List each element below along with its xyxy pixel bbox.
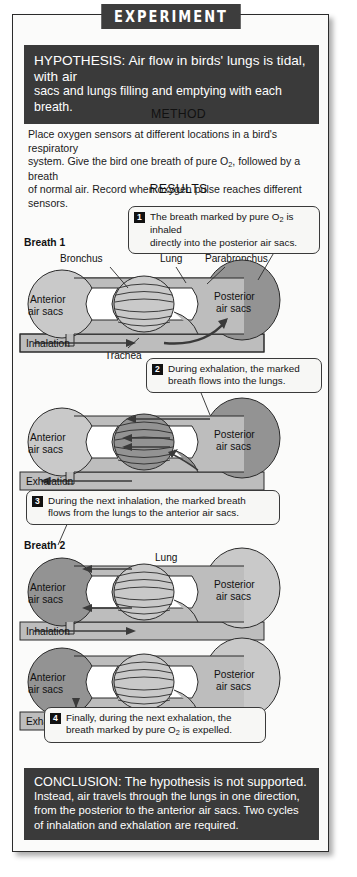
hypothesis-line-1: HYPOTHESIS: Air flow in birds' lungs is … [34,53,310,84]
svg-text:air sacs: air sacs [216,681,251,692]
conclusion-line-2: Instead, air travels through the lungs i… [34,789,310,803]
callout-4-badge: 4 [50,713,61,724]
callout-3-line-1: During the next inhalation, the marked b… [48,495,246,507]
method-heading: METHOD [0,107,357,121]
svg-text:air sacs: air sacs [216,591,251,602]
svg-text:Posterior: Posterior [214,291,255,302]
callout-2: 2 During exhalation, the marked breath f… [146,358,322,393]
callout-3-badge: 3 [32,496,43,507]
svg-text:Exhalation: Exhalation [26,476,73,487]
svg-text:air sacs: air sacs [216,303,251,314]
svg-text:air sacs: air sacs [28,684,63,695]
experiment-figure: EXPERIMENT HYPOTHESIS: Air flow in birds… [0,0,357,877]
svg-text:Anterior: Anterior [30,432,66,443]
conclusion-line-1: CONCLUSION: The hypothesis is not suppor… [34,775,310,789]
svg-text:air sacs: air sacs [28,444,63,455]
callout-4-text: Finally, during the next exhalation, the… [66,712,232,738]
conclusion-line-3: from the posterior to the anterior air s… [34,803,310,817]
callout-1-badge: 1 [134,212,145,223]
svg-text:Anterior: Anterior [30,672,66,683]
diagram-breath1-inhalation: Anterior air sacs Posterior air sacs Inh… [14,248,326,366]
method-line-1: Place oxygen sensors at different locati… [28,128,328,155]
callout-1-line-2: directly into the posterior air sacs. [150,237,313,249]
page-title: EXPERIMENT [101,4,241,29]
breath-1-label: Breath 1 [24,237,65,248]
diagram-breath1-exhalation: Anterior air sacs Posterior air sacs Exh… [14,386,326,504]
callout-2-line-1: During exhalation, the marked [168,363,300,375]
results-heading: RESULTS [0,182,357,196]
callout-2-line-2: breath flows into the lungs. [168,375,300,387]
callout-1-text: The breath marked by pure O2 is inhaled … [150,211,313,249]
svg-text:air sacs: air sacs [28,306,63,317]
callout-3: 3 During the next inhalation, the marked… [26,490,280,525]
callout-4-line-1: Finally, during the next exhalation, the [66,712,232,724]
svg-text:air sacs: air sacs [28,594,63,605]
callout-2-text: During exhalation, the marked breath flo… [168,363,300,388]
method-text: Place oxygen sensors at different locati… [28,128,328,211]
conclusion-bar: CONCLUSION: The hypothesis is not suppor… [24,768,319,840]
svg-text:Anterior: Anterior [30,582,66,593]
callout-1: 1 The breath marked by pure O2 is inhale… [128,206,320,254]
svg-text:Posterior: Posterior [214,579,255,590]
svg-text:Posterior: Posterior [214,669,255,680]
svg-text:Inhalation: Inhalation [26,338,70,349]
svg-text:Posterior: Posterior [214,429,255,440]
svg-text:Anterior: Anterior [30,294,66,305]
callout-2-badge: 2 [152,364,163,375]
conclusion-line-4: of inhalation and exhalation are require… [34,818,310,832]
svg-text:air sacs: air sacs [216,441,251,452]
callout-3-text: During the next inhalation, the marked b… [48,495,246,520]
method-line-2: system. Give the bird one breath of pure… [28,155,328,183]
callout-4: 4 Finally, during the next exhalation, t… [44,707,266,743]
callout-3-line-2: flows from the lungs to the anterior air… [48,507,246,519]
